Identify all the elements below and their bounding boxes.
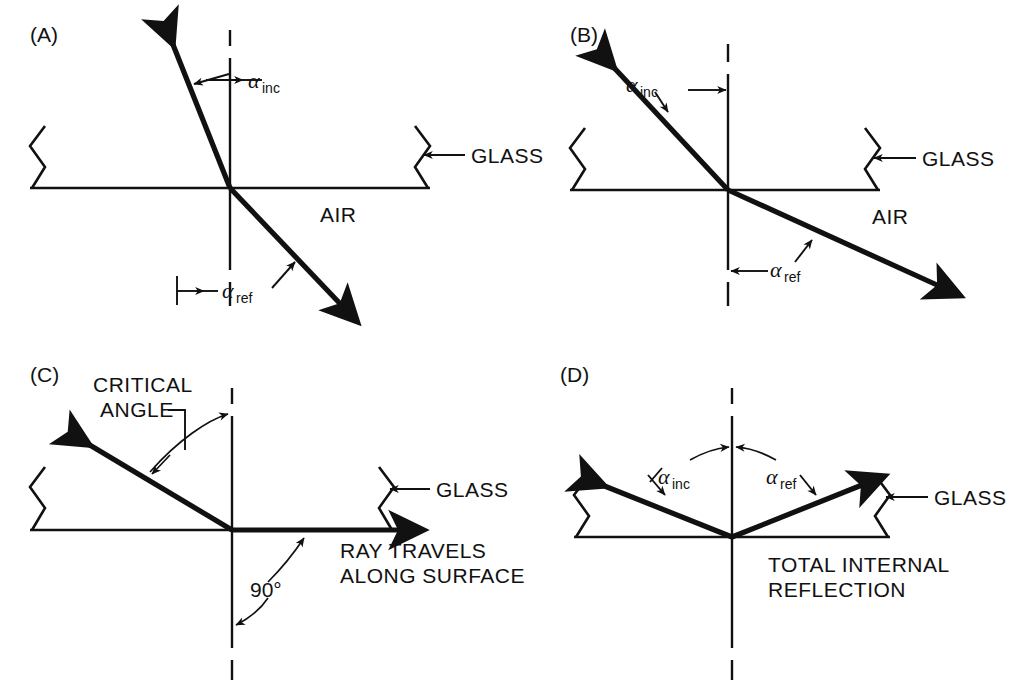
panel-b: (B) α inc α ref GL — [570, 23, 995, 306]
panel-b-break-symbol-right — [865, 128, 880, 190]
panel-c: (C) CRITICAL ANGLE 90° G — [30, 363, 525, 680]
panel-d-break-symbol-left — [574, 475, 589, 537]
panel-d-break-symbol-right — [875, 475, 890, 537]
panel-c-right-angle-label: 90° — [250, 578, 282, 601]
panel-a-label: (A) — [30, 23, 58, 46]
panel-b-alpha-inc-subscript: inc — [640, 84, 658, 100]
panel-a: (A) α inc α r — [30, 23, 544, 312]
panel-a-air-label: AIR — [320, 203, 357, 226]
panel-c-break-symbol-right — [379, 467, 394, 530]
panel-b-air-label: AIR — [872, 205, 909, 228]
panel-a-break-symbol-right — [415, 126, 430, 188]
panel-b-angle-inc-marker — [655, 90, 726, 112]
panel-a-alpha-inc-subscript: inc — [262, 80, 280, 96]
panel-c-surface-ray-line2: ALONG SURFACE — [340, 564, 525, 587]
panel-b-label: (B) — [570, 23, 598, 46]
panel-b-incident-ray — [605, 58, 728, 190]
panel-a-alpha-inc-symbol: α — [248, 68, 260, 93]
panel-a-incident-ray — [168, 32, 230, 188]
panel-d-reflection-line1: TOTAL INTERNAL — [768, 553, 950, 576]
panel-a-alpha-ref-subscript: ref — [236, 290, 252, 306]
panel-d-glass-label: GLASS — [934, 486, 1007, 509]
panel-d-alpha-inc-subscript: inc — [672, 476, 690, 492]
panel-d-alpha-inc-symbol: α — [658, 464, 670, 489]
panel-c-surface-ray-line1: RAY TRAVELS — [340, 539, 486, 562]
panel-d-incident-ray — [592, 481, 732, 537]
panel-d-reflection-line2: REFLECTION — [768, 578, 906, 601]
panel-c-break-symbol-left — [30, 467, 45, 530]
panel-b-refracted-ray — [728, 190, 948, 290]
panel-b-alpha-inc-symbol: α — [626, 72, 638, 97]
panel-b-alpha-ref-symbol: α — [770, 257, 782, 282]
panel-a-glass-label: GLASS — [471, 144, 544, 167]
panel-d: (D) α inc α ref GLASS TOTAL INTERNAL — [560, 363, 1007, 680]
panel-d-alpha-ref-symbol: α — [766, 464, 778, 489]
panel-b-break-symbol-left — [570, 128, 585, 190]
panel-b-glass-label: GLASS — [922, 147, 995, 170]
panel-b-alpha-ref-subscript: ref — [784, 269, 800, 285]
panel-c-critical-angle-line1: CRITICAL — [93, 373, 193, 396]
panel-c-incident-ray — [78, 438, 232, 530]
panel-d-alpha-ref-subscript: ref — [780, 476, 796, 492]
panel-c-glass-label: GLASS — [436, 478, 509, 501]
panel-d-label: (D) — [560, 363, 589, 386]
panel-c-label: (C) — [30, 363, 59, 386]
panel-a-alpha-ref-symbol: α — [222, 278, 234, 303]
panel-c-critical-angle-line2: ANGLE — [100, 398, 174, 421]
panel-d-reflected-ray — [732, 481, 872, 537]
optics-figure: (A) α inc α r — [0, 0, 1020, 697]
panel-a-break-symbol-left — [30, 126, 45, 188]
